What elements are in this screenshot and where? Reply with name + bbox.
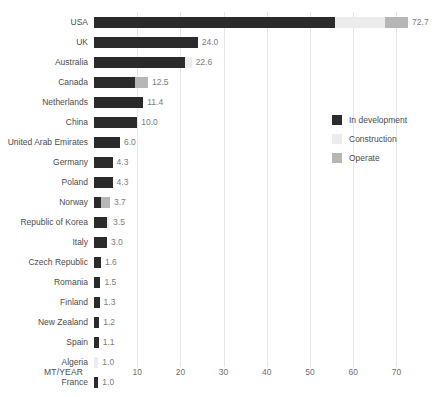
bar-value-label: 1.6 <box>101 252 117 272</box>
bar-segment-in-development <box>94 97 143 108</box>
stacked-bar[interactable] <box>94 57 192 68</box>
x-tick-label: 70 <box>392 367 401 377</box>
bar-segment-in-development <box>94 217 107 228</box>
stacked-bar[interactable] <box>94 197 110 208</box>
x-tick-label: 10 <box>132 367 141 377</box>
x-tick-label: 60 <box>348 367 357 377</box>
bar-segment-operate <box>135 77 148 88</box>
x-tick-label: 40 <box>262 367 271 377</box>
bar-segment-in-development <box>94 37 198 48</box>
bar-row[interactable]: Spain1.1 <box>94 332 399 352</box>
legend-swatch-icon <box>332 153 342 163</box>
bar-row[interactable]: UK24.0 <box>94 32 399 52</box>
legend-label: In development <box>349 115 407 125</box>
bar-value-label: 1.3 <box>100 292 116 312</box>
bar-value-label: 3.5 <box>109 212 125 232</box>
stacked-bar[interactable] <box>94 117 137 128</box>
stacked-bar[interactable] <box>94 137 120 148</box>
bar-segment-operate <box>101 197 110 208</box>
bar-segment-construction <box>335 17 385 28</box>
category-label: Norway <box>59 192 88 212</box>
bar-value-label: 3.7 <box>110 192 126 212</box>
legend-label: Operate <box>349 153 380 163</box>
category-label: Spain <box>66 332 88 352</box>
x-tick-label: 30 <box>219 367 228 377</box>
stacked-bar[interactable] <box>94 177 113 188</box>
stacked-bar[interactable] <box>94 97 143 108</box>
stacked-bar[interactable] <box>94 217 109 228</box>
bar-row[interactable]: New Zealand1.2 <box>94 312 399 332</box>
bar-segment-in-development <box>94 117 137 128</box>
bar-row[interactable]: Poland4.3 <box>94 172 399 192</box>
category-label: Republic of Korea <box>20 212 88 232</box>
stacked-bar[interactable] <box>94 257 101 268</box>
x-axis: 10203040506070 <box>94 367 399 385</box>
bar-segment-in-development <box>94 137 120 148</box>
category-label: New Zealand <box>38 312 88 332</box>
bar-row[interactable]: Australia22.6 <box>94 52 399 72</box>
legend-swatch-icon <box>332 115 342 125</box>
category-label: UK <box>76 32 88 52</box>
stacked-bar[interactable] <box>94 77 148 88</box>
category-label: Canada <box>58 72 88 92</box>
bar-row[interactable]: USA72.7 <box>94 12 399 32</box>
stacked-bar[interactable] <box>94 17 408 28</box>
legend-item[interactable]: In development <box>332 110 407 129</box>
category-label: Finland <box>60 292 88 312</box>
bar-row[interactable]: Netherlands11.4 <box>94 92 399 112</box>
bar-segment-in-development <box>94 157 113 168</box>
legend-label: Construction <box>349 134 397 144</box>
bar-value-label: 10.0 <box>137 112 158 132</box>
chart-legend: In developmentConstructionOperate <box>332 110 407 167</box>
bar-segment-in-development <box>94 177 113 188</box>
bar-segment-construction <box>185 57 192 68</box>
bar-segment-in-development <box>94 237 107 248</box>
bar-value-label: 1.5 <box>100 272 116 292</box>
legend-item[interactable]: Operate <box>332 148 407 167</box>
bar-segment-in-development <box>94 17 335 28</box>
bar-value-label: 4.3 <box>113 152 129 172</box>
bar-value-label: 12.5 <box>148 72 169 92</box>
bar-row[interactable]: Czech Republic1.6 <box>94 252 399 272</box>
legend-swatch-icon <box>332 134 342 144</box>
bar-value-label: 72.7 <box>408 12 429 32</box>
bar-value-label: 22.6 <box>192 52 213 72</box>
bar-row[interactable]: Norway3.7 <box>94 192 399 212</box>
stacked-bar[interactable] <box>94 237 107 248</box>
bar-value-label: 4.3 <box>113 172 129 192</box>
category-label: United Arab Emirates <box>8 132 88 152</box>
category-label: Romania <box>54 272 88 292</box>
bar-row[interactable]: Canada12.5 <box>94 72 399 92</box>
plot-area: USA72.7UK24.0Australia22.6Canada12.5Neth… <box>94 12 399 367</box>
category-label: Czech Republic <box>28 252 88 272</box>
category-label: Italy <box>72 232 88 252</box>
x-axis-title: MT/YEAR <box>44 367 83 377</box>
stacked-bar[interactable] <box>94 157 113 168</box>
category-label: Netherlands <box>42 92 88 112</box>
bar-row[interactable]: Romania1.5 <box>94 272 399 292</box>
bar-value-label: 24.0 <box>198 32 219 52</box>
category-label: Poland <box>62 172 88 192</box>
x-tick-label: 20 <box>176 367 185 377</box>
bar-value-label: 6.0 <box>120 132 136 152</box>
bar-value-label: 11.4 <box>143 92 163 112</box>
bar-value-label: 1.2 <box>99 312 115 332</box>
category-label: USA <box>71 12 88 32</box>
bar-row[interactable]: Italy3.0 <box>94 232 399 252</box>
bar-value-label: 1.1 <box>99 332 115 352</box>
bar-rows: USA72.7UK24.0Australia22.6Canada12.5Neth… <box>94 12 399 392</box>
legend-item[interactable]: Construction <box>332 129 407 148</box>
bar-segment-in-development <box>94 257 101 268</box>
bar-value-label: 3.0 <box>107 232 123 252</box>
category-label: Australia <box>55 52 88 72</box>
bar-row[interactable]: Republic of Korea3.5 <box>94 212 399 232</box>
category-label: China <box>66 112 88 132</box>
bar-segment-in-development <box>94 57 185 68</box>
x-tick-label: 50 <box>305 367 314 377</box>
bar-segment-operate <box>385 17 408 28</box>
category-label: Germany <box>53 152 88 172</box>
bar-row[interactable]: Finland1.3 <box>94 292 399 312</box>
chart-container: USA72.7UK24.0Australia22.6Canada12.5Neth… <box>0 0 443 397</box>
stacked-bar[interactable] <box>94 37 198 48</box>
bar-segment-in-development <box>94 197 101 208</box>
